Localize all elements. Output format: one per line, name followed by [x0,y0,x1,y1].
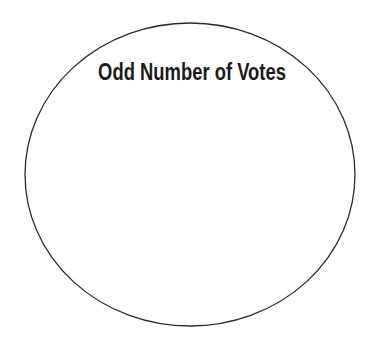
diagram-canvas [0,0,373,344]
set-label: Odd Number of Votes [38,59,345,85]
